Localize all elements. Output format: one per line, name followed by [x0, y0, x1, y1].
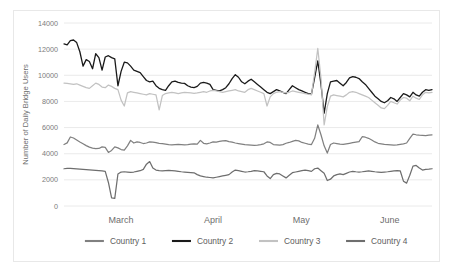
y-tick-label: 8000	[42, 97, 58, 106]
line-chart: 14000120001000080006000400020000 MarchAp…	[14, 11, 439, 261]
y-tick-label: 2000	[42, 175, 58, 184]
chart-legend: Country 1Country 2Country 3Country 4	[85, 236, 408, 246]
x-category-label: April	[204, 215, 222, 225]
y-tick-label: 6000	[42, 123, 58, 132]
data-series	[64, 40, 432, 198]
y-tick-label: 14000	[38, 19, 58, 28]
series-line-country-1	[64, 125, 432, 153]
x-category-label: March	[109, 215, 134, 225]
chart-frame: 14000120001000080006000400020000 MarchAp…	[13, 10, 440, 262]
gridlines	[64, 23, 432, 206]
y-tick-label: 10000	[38, 71, 58, 80]
y-axis-title-text: Number of Daily Bridge Users	[21, 64, 30, 165]
y-tick-label: 4000	[42, 149, 58, 158]
legend-label: Country 4	[371, 236, 408, 246]
legend-label: Country 1	[110, 236, 147, 246]
y-tick-label: 12000	[38, 45, 58, 54]
legend-label: Country 3	[284, 236, 321, 246]
series-line-country-2	[64, 40, 432, 113]
legend-label: Country 2	[197, 236, 234, 246]
x-category-label: June	[380, 215, 400, 225]
y-axis-tick-labels: 14000120001000080006000400020000	[38, 19, 58, 211]
y-tick-label: 0	[54, 202, 58, 211]
x-category-label: May	[293, 215, 311, 225]
series-line-country-3	[64, 48, 432, 124]
x-axis-category-labels: MarchAprilMayJune	[109, 215, 400, 225]
y-axis-title: Number of Daily Bridge Users	[21, 64, 30, 165]
